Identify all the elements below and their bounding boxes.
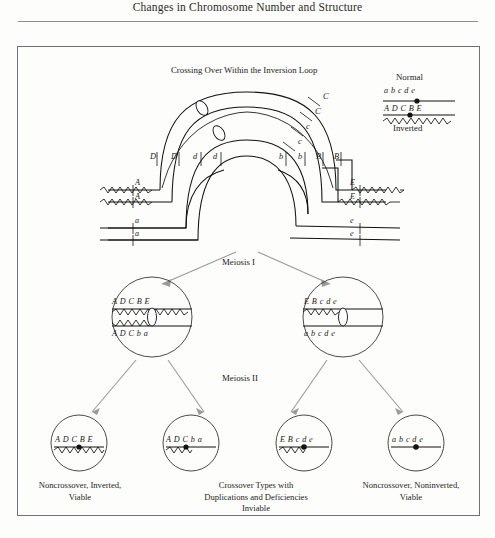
m1-cell-0-bottom-alleles: A D C b a — [112, 330, 148, 338]
m1-cell-1-bottom-alleles: a b c d e — [304, 330, 335, 338]
gamete-3-alleles: a b c d e — [392, 436, 423, 444]
strand-label-left-0: A — [135, 179, 140, 187]
strand-label-right-2: e — [350, 217, 354, 225]
running-head: Changes in Chromosome Number and Structu… — [0, 2, 495, 14]
loop-label-upper-3: c — [298, 138, 302, 146]
m1-cell-1-top-alleles: E B c d e — [304, 298, 337, 306]
figure-frame — [17, 46, 480, 516]
loop-label-left-1: D — [171, 153, 177, 161]
loop-label-right-2: B — [316, 153, 321, 161]
crossing-over-title: Crossing Over Within the Inversion Loop — [171, 66, 317, 75]
caption-center: Crossover Types with Duplications and De… — [176, 480, 336, 515]
caption-left: Noncrossover, Inverted, Viable — [12, 480, 148, 503]
header-rule — [18, 21, 478, 22]
caption-left-line-0: Noncrossover, Inverted, — [12, 480, 148, 492]
loop-label-left-2: d — [193, 153, 197, 161]
loop-label-right-0: b — [279, 153, 283, 161]
strand-label-right-1: E — [350, 193, 355, 201]
strand-label-right-3: e — [350, 230, 354, 238]
strand-label-left-1: A — [135, 193, 140, 201]
strand-label-right-0: E — [350, 179, 355, 187]
caption-left-line-1: Viable — [12, 492, 148, 504]
caption-center-line-2: Inviable — [176, 503, 336, 515]
caption-right-line-0: Noncrossover, Noninverted, — [338, 480, 484, 492]
loop-label-left-3: d — [213, 153, 217, 161]
loop-label-right-1: b — [298, 153, 302, 161]
legend-normal-label: Normal — [396, 73, 423, 82]
gamete-1-alleles: A D C b a — [166, 436, 202, 444]
gamete-0-alleles: A D C B E — [55, 436, 93, 444]
loop-label-upper-0: C — [323, 93, 329, 101]
loop-label-upper-1: C — [315, 108, 321, 116]
loop-label-right-3: B — [334, 153, 339, 161]
figure-page: Changes in Chromosome Number and Structu… — [0, 0, 495, 538]
caption-right: Noncrossover, Noninverted, Viable — [338, 480, 484, 503]
strand-label-left-3: a — [135, 230, 139, 238]
meiosis-one-label: Meiosis I — [222, 258, 255, 267]
meiosis-two-label: Meiosis II — [222, 374, 258, 383]
strand-label-left-2: a — [135, 217, 139, 225]
caption-right-line-1: Viable — [338, 492, 484, 504]
legend-normal-alleles: a b c d e — [384, 87, 415, 95]
caption-center-line-0: Crossover Types with — [176, 480, 336, 492]
loop-label-left-0: D — [150, 153, 156, 161]
m1-cell-0-top-alleles: A D C B E — [112, 298, 150, 306]
legend-inverted-alleles: A D C B E — [384, 105, 422, 113]
loop-label-upper-2: c — [306, 123, 310, 131]
gamete-2-alleles: E B c d e — [280, 436, 313, 444]
caption-center-line-1: Duplications and Deficiencies — [176, 492, 336, 504]
legend-inverted-label: Inverted — [393, 124, 422, 133]
